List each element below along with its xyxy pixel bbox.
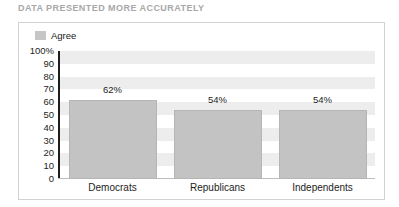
- bar: [279, 110, 367, 179]
- bar-series: 62%54%54%: [60, 51, 375, 179]
- y-axis-tick-label: 70: [43, 85, 54, 95]
- bar-value-label: 62%: [69, 85, 157, 95]
- y-axis-tick-label: 100%: [30, 46, 54, 56]
- plot-area: 100%9080706050403020100 62%54%54% Democr…: [58, 51, 375, 179]
- legend-swatch-icon: [35, 31, 46, 40]
- bar-group: 62%: [69, 51, 157, 179]
- y-axis-tick-label: 90: [43, 59, 54, 69]
- chart-legend: Agree: [35, 31, 76, 41]
- y-axis-tick-label: 0: [49, 174, 54, 184]
- x-axis-labels: DemocratsRepublicansIndependents: [60, 183, 375, 199]
- y-axis-tick-label: 50: [43, 110, 54, 120]
- bar-value-label: 54%: [174, 95, 262, 105]
- chart-container: Agree 100%9080706050403020100 62%54%54% …: [18, 22, 385, 200]
- bar-value-label: 54%: [279, 95, 367, 105]
- bar: [69, 100, 157, 179]
- y-axis-tick-label: 10: [43, 161, 54, 171]
- y-axis-tick-label: 40: [43, 123, 54, 133]
- bar-group: 54%: [174, 51, 262, 179]
- legend-item-label: Agree: [51, 31, 76, 41]
- y-axis-tick-label: 80: [43, 72, 54, 82]
- x-axis-category-label: Democrats: [60, 183, 165, 193]
- x-axis-category-label: Republicans: [165, 183, 270, 193]
- page-title: DATA PRESENTED MORE ACCURATELY: [18, 3, 205, 13]
- bar: [174, 110, 262, 179]
- x-axis-category-label: Independents: [270, 183, 375, 193]
- bar-group: 54%: [279, 51, 367, 179]
- y-axis-tick-label: 60: [43, 97, 54, 107]
- y-axis-tick-label: 30: [43, 136, 54, 146]
- y-axis-tick-label: 20: [43, 149, 54, 159]
